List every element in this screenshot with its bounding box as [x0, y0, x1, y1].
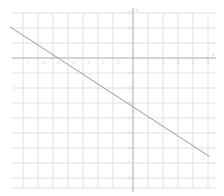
x-tick-label: -5: [57, 61, 60, 65]
y-tick-label: 3: [129, 11, 131, 15]
x-tick-label: -1: [117, 61, 120, 65]
y-tick-label: -5: [128, 131, 131, 135]
y-tick-label: -7: [128, 161, 131, 165]
y-axis-label: y: [135, 8, 138, 12]
x-tick-label: -2: [102, 61, 105, 65]
x-axis-tick-labels: -7-6-5-4-3-2-112345: [27, 61, 210, 65]
y-tick-label: -2: [128, 86, 131, 90]
y-tick-label: -1: [128, 71, 131, 75]
y-tick-label: -6: [128, 146, 131, 150]
graph-canvas: -7-6-5-4-3-2-112345 321-1-2-3-4-5-6-7-8 …: [0, 0, 224, 196]
x-tick-label: 1: [147, 61, 149, 65]
x-tick-label: -6: [42, 61, 45, 65]
linear-function-line: [10, 27, 210, 157]
x-tick-label: -7: [27, 61, 30, 65]
x-axis-label: x: [211, 53, 214, 57]
x-tick-label: -3: [87, 61, 90, 65]
y-tick-label: 2: [129, 26, 131, 30]
x-tick-label: 4: [192, 61, 194, 65]
x-tick-label: 5: [207, 61, 209, 65]
axis-name-labels: x y: [135, 8, 215, 57]
x-tick-label: 3: [177, 61, 179, 65]
y-tick-label: -4: [128, 116, 131, 120]
x-tick-label: -4: [72, 61, 75, 65]
axes: [12, 8, 216, 192]
y-tick-label: 1: [129, 41, 131, 45]
y-axis-tick-labels: 321-1-2-3-4-5-6-7-8: [128, 11, 131, 180]
y-tick-label: -8: [128, 176, 131, 180]
grid-horizontal-lines: [12, 13, 216, 188]
grid-vertical-lines: [23, 13, 208, 188]
plotted-line-series: [10, 27, 210, 157]
coordinate-graph: -7-6-5-4-3-2-112345 321-1-2-3-4-5-6-7-8 …: [0, 0, 224, 196]
x-tick-label: 2: [162, 61, 164, 65]
